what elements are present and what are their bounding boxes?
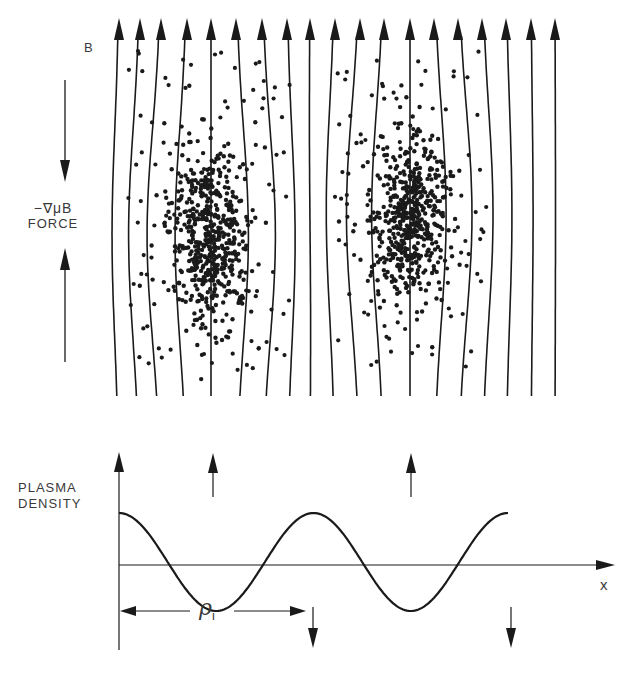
field-arrowhead (355, 18, 365, 40)
force-label: −∇μB FORCE (18, 200, 88, 232)
rho-right-arrowhead (290, 606, 306, 616)
field-line (485, 36, 493, 396)
y-axis-arrowhead (114, 452, 124, 472)
field-line (461, 36, 472, 396)
force-up-arrowhead (60, 248, 70, 270)
density-label-line1: PLASMA (18, 480, 81, 496)
x-axis-arrowhead (596, 560, 615, 570)
density-curve (119, 513, 508, 611)
rho-subscript: i (212, 608, 215, 623)
field-arrowhead (429, 18, 439, 40)
field-line (309, 36, 310, 396)
field-line (129, 36, 138, 396)
field-line (288, 36, 295, 396)
density-force-arrows (208, 453, 516, 648)
rho-left-arrowhead (120, 606, 136, 616)
plasma-particles (126, 49, 488, 381)
rho-symbol: ρ (199, 595, 212, 620)
field-arrowhead (135, 18, 145, 40)
force-label-text: FORCE (18, 216, 88, 232)
field-arrowhead (257, 18, 267, 40)
field-label-b: B (84, 40, 94, 56)
field-line-arrowheads (114, 18, 560, 40)
field-arrowhead (501, 18, 511, 40)
density-down-arrow (308, 607, 318, 648)
field-arrowhead (405, 18, 415, 40)
density-up-arrow (208, 453, 218, 497)
field-arrowhead (156, 18, 166, 40)
field-arrowhead (305, 18, 315, 40)
field-line (112, 36, 118, 396)
density-down-arrow (506, 607, 516, 648)
density-axis-label: PLASMA DENSITY (18, 480, 81, 512)
rho-i-label: ρi (199, 600, 215, 624)
field-arrowhead (114, 18, 124, 40)
field-arrowhead (477, 18, 487, 40)
field-arrowhead (453, 18, 463, 40)
field-line (147, 36, 159, 396)
field-arrowhead (282, 18, 292, 40)
field-arrowhead (379, 18, 389, 40)
field-arrowhead (330, 18, 340, 40)
field-arrowhead (526, 18, 536, 40)
plasma-field-diagram (0, 0, 633, 688)
field-arrowhead (231, 18, 241, 40)
field-line (532, 36, 534, 396)
field-line (507, 36, 512, 396)
field-arrowhead (550, 18, 560, 40)
field-arrowhead (182, 18, 192, 40)
force-down-arrowhead (60, 160, 70, 182)
density-up-arrow (406, 453, 416, 497)
force-label-grad: −∇μB (18, 200, 88, 216)
density-axes (114, 452, 615, 650)
x-axis-label: x (600, 577, 609, 593)
field-line (326, 36, 333, 396)
field-arrowhead (206, 18, 216, 40)
density-label-line2: DENSITY (18, 496, 81, 512)
